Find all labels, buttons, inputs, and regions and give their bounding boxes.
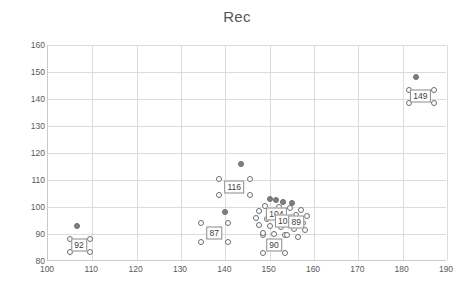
data-point[interactable] — [431, 87, 437, 93]
x-axis-ticks: 100110120130140150160170180190 — [47, 261, 446, 279]
data-point[interactable] — [413, 74, 419, 80]
y-tick-label: 150 — [5, 67, 45, 77]
x-tick-label: 150 — [249, 264, 289, 274]
data-point[interactable] — [253, 215, 259, 221]
x-tick-label: 160 — [293, 264, 333, 274]
data-point[interactable] — [273, 197, 279, 203]
data-point[interactable] — [256, 222, 262, 228]
x-tick-label: 170 — [337, 264, 377, 274]
data-label[interactable]: 116 — [224, 180, 244, 193]
y-tick-label: 120 — [5, 148, 45, 158]
gridline-vertical — [137, 45, 138, 260]
gridline-vertical — [358, 45, 359, 260]
y-tick-label: 90 — [5, 229, 45, 239]
data-point[interactable] — [238, 161, 244, 167]
chart-title: Rec — [0, 8, 474, 25]
data-label[interactable]: 87 — [207, 226, 222, 239]
gridline-vertical — [225, 45, 226, 260]
plot-area: 92149116879010410389 — [47, 45, 446, 261]
data-point[interactable] — [198, 220, 204, 226]
data-point[interactable] — [287, 205, 293, 211]
gridline-horizontal — [48, 153, 446, 154]
gridline-vertical — [181, 45, 182, 260]
data-label[interactable]: 90 — [266, 238, 281, 251]
data-point[interactable] — [87, 249, 93, 255]
y-axis-ticks: 8090100110120130140150160 — [0, 45, 45, 261]
gridline-horizontal — [48, 234, 446, 235]
gridline-horizontal — [48, 126, 446, 127]
x-tick-label: 130 — [160, 264, 200, 274]
data-point[interactable] — [216, 192, 222, 198]
gridline-vertical — [92, 45, 93, 260]
data-point[interactable] — [431, 100, 437, 106]
data-point[interactable] — [247, 192, 253, 198]
data-point[interactable] — [304, 213, 310, 219]
data-point[interactable] — [74, 223, 80, 229]
gridline-vertical — [447, 45, 448, 260]
data-point[interactable] — [298, 207, 304, 213]
data-point[interactable] — [256, 208, 262, 214]
data-point[interactable] — [225, 239, 231, 245]
x-tick-label: 110 — [71, 264, 111, 274]
data-point[interactable] — [216, 176, 222, 182]
scatter-chart: Rec 8090100110120130140150160 1001101201… — [0, 0, 474, 300]
gridline-horizontal — [48, 72, 446, 73]
data-point[interactable] — [222, 209, 228, 215]
y-tick-label: 160 — [5, 40, 45, 50]
data-point[interactable] — [267, 196, 273, 202]
gridline-horizontal — [48, 207, 446, 208]
gridline-vertical — [403, 45, 404, 260]
gridline-horizontal — [48, 45, 446, 46]
y-tick-label: 130 — [5, 121, 45, 131]
gridline-horizontal — [48, 99, 446, 100]
x-tick-label: 100 — [27, 264, 67, 274]
data-label[interactable]: 149 — [410, 90, 430, 103]
data-point[interactable] — [198, 239, 204, 245]
data-point[interactable] — [267, 223, 273, 229]
data-point[interactable] — [271, 231, 277, 237]
x-tick-label: 180 — [382, 264, 422, 274]
y-tick-label: 110 — [5, 175, 45, 185]
gridline-vertical — [314, 45, 315, 260]
data-label[interactable]: 89 — [289, 215, 304, 228]
data-point[interactable] — [282, 250, 288, 256]
y-tick-label: 140 — [5, 94, 45, 104]
data-point[interactable] — [284, 232, 290, 238]
x-tick-label: 190 — [426, 264, 466, 274]
y-tick-label: 100 — [5, 202, 45, 212]
data-point[interactable] — [260, 250, 266, 256]
data-point[interactable] — [225, 220, 231, 226]
data-point[interactable] — [247, 176, 253, 182]
x-tick-label: 120 — [116, 264, 156, 274]
data-label[interactable]: 92 — [71, 238, 86, 251]
data-point[interactable] — [295, 234, 301, 240]
data-point[interactable] — [260, 230, 266, 236]
x-tick-label: 140 — [204, 264, 244, 274]
